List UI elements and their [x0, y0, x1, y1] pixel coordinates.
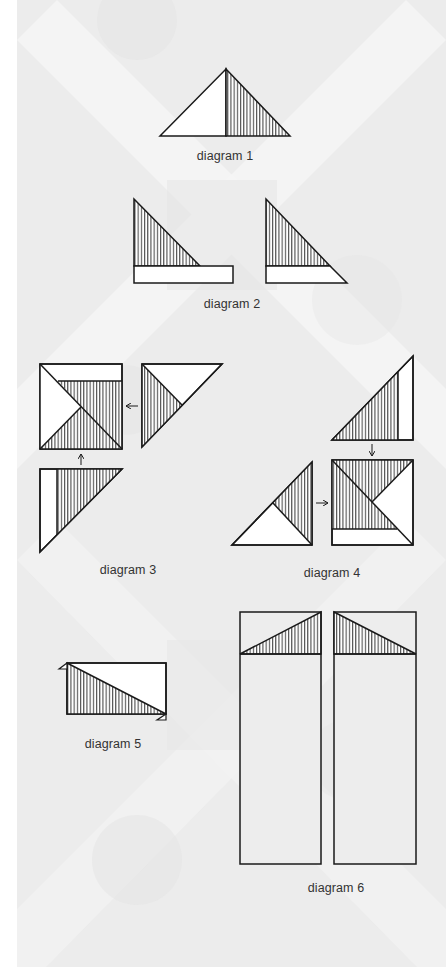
- dog-ear-bottom-right: [157, 714, 166, 720]
- diagram-1-caption: diagram 1: [197, 149, 254, 163]
- diagram-6: [240, 612, 416, 864]
- quilt-instructions-page: diagram 1 diagram 2 diagram 3 diagram 4 …: [0, 0, 446, 967]
- diagram-5: [59, 663, 166, 720]
- dog-ear-top-left: [59, 663, 67, 669]
- diagram-2-left: [134, 199, 233, 283]
- diagram-1: [160, 69, 290, 136]
- diagram-3: [40, 364, 222, 552]
- diagram-artwork: [0, 0, 446, 967]
- diagram-2-right: [266, 199, 347, 283]
- diagram-4: [232, 356, 413, 545]
- diagram-3-caption: diagram 3: [100, 563, 157, 577]
- diagram-5-caption: diagram 5: [85, 737, 142, 751]
- diagram-4-caption: diagram 4: [304, 566, 361, 580]
- diagram-2-caption: diagram 2: [204, 297, 261, 311]
- diagram-6-caption: diagram 6: [308, 881, 365, 895]
